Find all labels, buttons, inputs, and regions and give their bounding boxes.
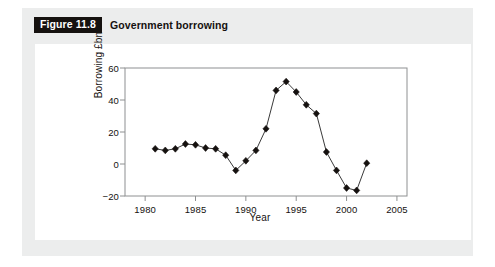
chart-panel: Borrowing £bn Year −200204060 1980198519…: [35, 44, 471, 240]
y-tick-label: 60: [79, 63, 119, 74]
figure-root: Figure 11.8 Government borrowing Borrowi…: [0, 0, 495, 267]
x-tick-label: 2000: [336, 204, 358, 215]
figure-number-badge: Figure 11.8: [34, 17, 102, 33]
figure-caption-title: Government borrowing: [110, 19, 228, 31]
x-tick-label: 2005: [386, 204, 408, 215]
x-tick-label: 1985: [185, 204, 207, 215]
x-tick-label: 1990: [235, 204, 257, 215]
figure-caption-row: Figure 11.8 Government borrowing: [34, 17, 228, 33]
plot-area: Borrowing £bn Year −200204060 1980198519…: [35, 44, 471, 240]
y-tick-label: 0: [79, 159, 119, 170]
y-tick-label: −20: [79, 191, 119, 202]
y-tick-label: 20: [79, 127, 119, 138]
x-tick-label: 1980: [134, 204, 156, 215]
y-tick-label: 40: [79, 95, 119, 106]
x-tick-label: 1995: [285, 204, 307, 215]
